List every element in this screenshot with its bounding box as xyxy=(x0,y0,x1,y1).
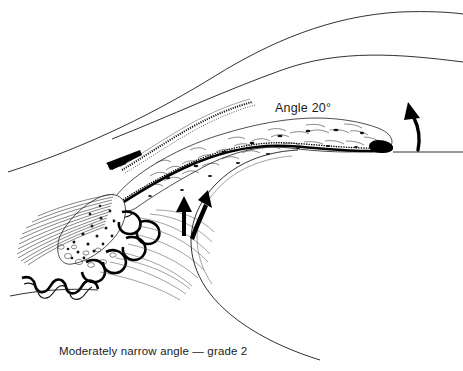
ciliary-process-3 xyxy=(123,237,146,260)
angle-label: Angle 20° xyxy=(275,101,331,115)
ciliary-body-group xyxy=(17,194,126,267)
lens-capsule xyxy=(191,150,320,360)
lens-group xyxy=(191,150,320,360)
iris-group xyxy=(111,118,393,217)
gonioscopy-figure: Angle 20° Moderately narrow angle — grad… xyxy=(0,0,463,371)
outflow-curved-arrow xyxy=(404,102,420,150)
figure-canvas: Angle 20° Moderately narrow angle — grad… xyxy=(0,0,463,371)
figure-caption: Moderately narrow angle — grade 2 xyxy=(59,345,247,357)
